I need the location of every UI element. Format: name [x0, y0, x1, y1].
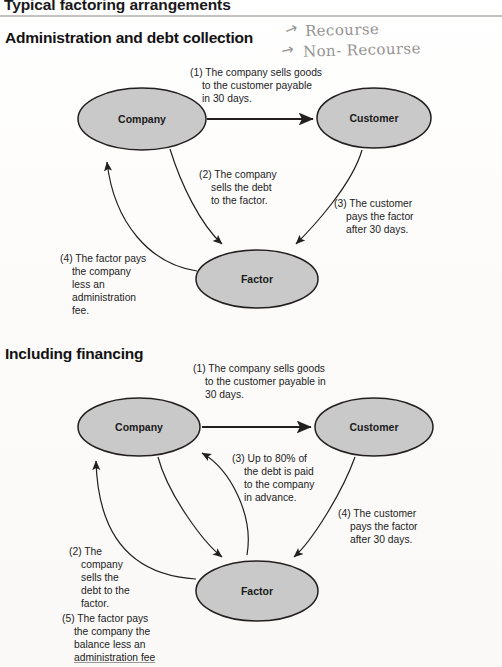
caption-financing-step-3: (3) Up to 80% of the debt is paid to the… [232, 452, 342, 504]
node-label-customer: Customer [349, 112, 398, 124]
section-heading-administration: Administration and debt collection [5, 29, 253, 47]
caption-financing-step-1: (1) The company sells goods to the custo… [193, 362, 378, 401]
caption-admin-step-3: (3) The customer pays the factor after 3… [334, 197, 454, 236]
node-label-company: Company [118, 113, 166, 125]
caption-admin-step-2: (2) The company sells the debt to the fa… [199, 168, 314, 207]
caption-admin-step-4: (4) The factor pays the company less an … [60, 252, 180, 317]
caption-financing-step-4: (4) The customer pays the factor after 3… [338, 507, 463, 546]
caption-financing-step-5: (5) The factor pays the company the bala… [62, 612, 197, 664]
node-label-company: Company [115, 421, 163, 433]
node-label-customer: Customer [349, 421, 398, 433]
node-label-factor: Factor [241, 585, 273, 597]
node-label-factor: Factor [241, 273, 273, 285]
caption-financing-step-2: (2) The company sells the debt to the fa… [69, 545, 179, 610]
section-heading-including-financing: Including financing [5, 345, 143, 363]
page-title: Typical factoring arrangements [4, 0, 424, 14]
handwritten-note-recourse: Recourse [305, 20, 380, 40]
caption-admin-step-1: (1) The company sells goods to the custo… [190, 66, 365, 105]
header-divider [0, 15, 502, 17]
